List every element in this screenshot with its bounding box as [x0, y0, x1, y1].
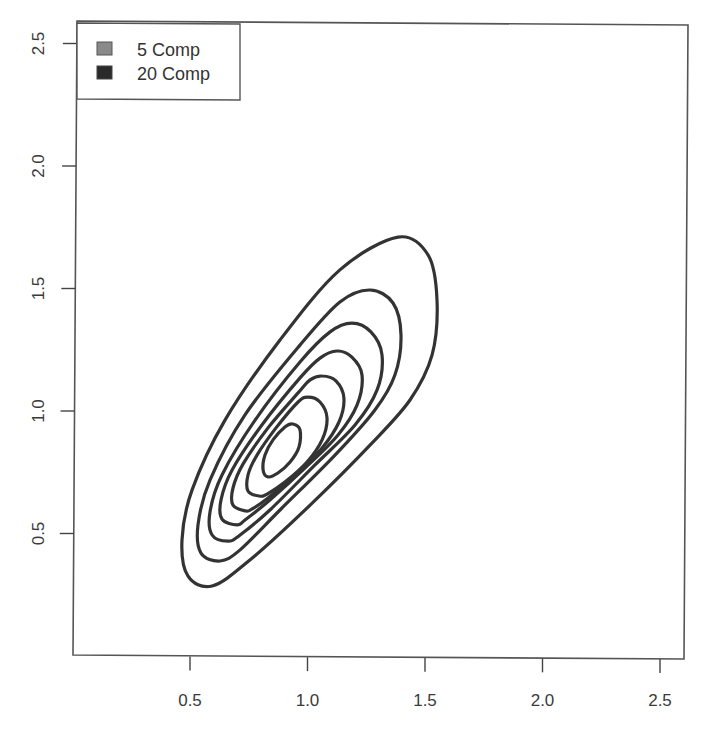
y-tick-label: 0.5 [29, 522, 48, 546]
x-tick-label: 0.5 [178, 691, 202, 710]
y-tick-label: 2.0 [29, 154, 48, 178]
y-tick-label: 1.5 [29, 277, 48, 301]
legend-label-20-comp: 20 Comp [137, 64, 210, 84]
legend: 5 Comp 20 Comp [77, 23, 240, 100]
legend-box [77, 23, 240, 100]
legend-label-5-comp: 5 Comp [137, 40, 200, 60]
x-tick-label: 2.0 [531, 691, 555, 710]
x-tick-label: 1.5 [413, 691, 437, 710]
legend-swatch-20-comp [97, 66, 112, 79]
chart-background [0, 0, 706, 731]
contour-chart: 0.51.01.52.02.5 0.51.01.52.02.5 5 Comp 2… [0, 0, 706, 731]
x-tick-label: 2.5 [648, 691, 672, 710]
x-tick-label: 1.0 [296, 691, 320, 710]
legend-swatch-5-comp [97, 42, 112, 55]
y-tick-label: 2.5 [29, 32, 48, 56]
y-tick-label: 1.0 [29, 399, 48, 423]
